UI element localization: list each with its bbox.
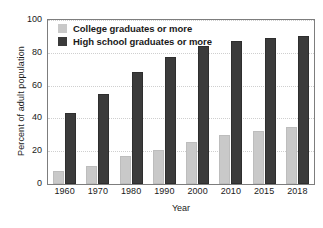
y-tick-label: 100 xyxy=(16,14,42,24)
x-tick-label: 2000 xyxy=(181,186,214,196)
x-axis-tick-labels: 19601970198019902000201020152018 xyxy=(48,186,314,196)
bar-college[interactable] xyxy=(153,150,164,184)
y-tick-label: 80 xyxy=(16,47,42,57)
legend-label-highschool: High school graduates or more xyxy=(73,36,212,47)
bar-group xyxy=(248,20,281,184)
bar-highschool[interactable] xyxy=(98,94,109,184)
chart-legend: College graduates or more High school gr… xyxy=(58,23,212,47)
bar-highschool[interactable] xyxy=(198,46,209,184)
legend-swatch-college-icon xyxy=(58,24,67,33)
bar-highschool[interactable] xyxy=(165,57,176,184)
x-tick-label: 1990 xyxy=(148,186,181,196)
bar-college[interactable] xyxy=(53,171,64,184)
y-axis-tick-labels: 100 80 60 40 20 0 xyxy=(16,14,42,184)
bar-college[interactable] xyxy=(86,166,97,184)
bar-college[interactable] xyxy=(186,142,197,184)
bar-college[interactable] xyxy=(253,131,264,184)
y-tick-label: 20 xyxy=(16,145,42,155)
bar-college[interactable] xyxy=(120,156,131,184)
y-tick-label: 60 xyxy=(16,80,42,90)
y-tick-label: 40 xyxy=(16,112,42,122)
bar-college[interactable] xyxy=(286,127,297,184)
bar-highschool[interactable] xyxy=(132,72,143,184)
bar-group xyxy=(214,20,247,184)
chart-figure: Percent of adult population 100 80 60 40… xyxy=(0,0,323,228)
legend-label-college: College graduates or more xyxy=(73,23,192,34)
x-tick-label: 1970 xyxy=(81,186,114,196)
legend-item-highschool: High school graduates or more xyxy=(58,36,212,47)
x-axis-title: Year xyxy=(48,203,314,213)
x-tick-label: 2018 xyxy=(281,186,314,196)
bar-group xyxy=(281,20,314,184)
bar-highschool[interactable] xyxy=(231,41,242,184)
x-tick-label: 1980 xyxy=(115,186,148,196)
x-tick-label: 1960 xyxy=(48,186,81,196)
bar-college[interactable] xyxy=(219,135,230,184)
legend-swatch-highschool-icon xyxy=(58,37,67,46)
y-tick-label: 0 xyxy=(16,178,42,188)
bar-highschool[interactable] xyxy=(65,113,76,184)
x-tick-label: 2015 xyxy=(248,186,281,196)
legend-item-college: College graduates or more xyxy=(58,23,212,34)
x-tick-label: 2010 xyxy=(214,186,247,196)
bar-highschool[interactable] xyxy=(298,36,309,184)
bar-highschool[interactable] xyxy=(265,38,276,184)
